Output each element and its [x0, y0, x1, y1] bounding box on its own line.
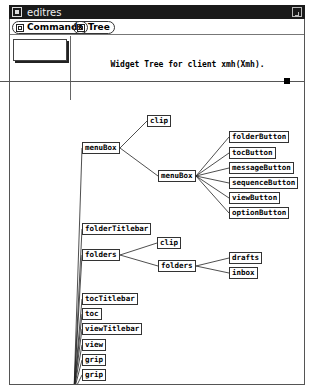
tree-node-folderTitlebar[interactable]: folderTitlebar — [82, 223, 151, 235]
tree-node-menuBox2[interactable]: menuBox — [158, 170, 196, 182]
tree-label: Tree — [88, 22, 110, 32]
pane-separator — [0, 81, 305, 82]
menu-bar: Commands Tree — [10, 19, 304, 35]
tree-node-tocTitlebar[interactable]: tocTitlebar — [82, 293, 138, 305]
tree-node-folderButton[interactable]: folderButton — [229, 131, 289, 143]
tree-node-clip2[interactable]: clip — [157, 237, 181, 249]
tree-node-grip2[interactable]: grip — [82, 369, 106, 381]
tree-node-messageButton[interactable]: messageButton — [229, 162, 294, 174]
menu-icon — [16, 24, 24, 32]
tree-node-menuBox1[interactable]: menuBox — [82, 142, 120, 154]
tree-menu-button[interactable]: Tree — [73, 21, 115, 34]
window-title: editres — [27, 7, 61, 18]
info-panel: Widget Tree for client xmh(Xmh). — [10, 36, 304, 100]
tree-node-inbox[interactable]: inbox — [229, 267, 258, 279]
editres-window: Commands Tree Widget Tree for client xmh… — [9, 19, 305, 385]
tree-node-drafts[interactable]: drafts — [229, 252, 262, 264]
tree-node-clip1[interactable]: clip — [147, 115, 171, 127]
tree-node-viewTitlebar[interactable]: viewTitlebar — [82, 323, 142, 335]
window-menu-icon[interactable] — [12, 7, 22, 17]
tree-node-folders1[interactable]: folders — [82, 249, 120, 261]
tree-node-toc[interactable]: toc — [82, 308, 102, 320]
widget-tree-view[interactable]: clipmenuBoxmenuBoxfolderButtontocButtonm… — [10, 101, 304, 384]
tree-node-view[interactable]: view — [82, 339, 106, 351]
tree-node-folders2[interactable]: folders — [158, 260, 196, 272]
tree-node-optionButton[interactable]: optionButton — [229, 207, 289, 219]
tree-node-tocButton[interactable]: tocButton — [229, 147, 276, 159]
tree-node-viewButton[interactable]: viewButton — [229, 192, 280, 204]
tree-node-sequenceButton[interactable]: sequenceButton — [229, 177, 298, 189]
panner-box[interactable] — [13, 39, 67, 61]
maximize-icon[interactable] — [292, 7, 302, 17]
menu-icon — [77, 24, 85, 32]
pane-grip-handle[interactable] — [284, 78, 290, 84]
tree-node-grip1[interactable]: grip — [82, 354, 106, 366]
status-message: Widget Tree for client xmh(Xmh). — [71, 60, 304, 69]
title-bar[interactable]: editres — [9, 5, 305, 19]
